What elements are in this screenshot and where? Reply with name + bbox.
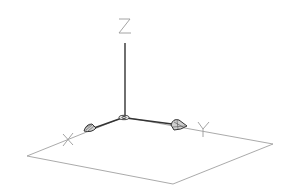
origin-marker — [119, 115, 129, 119]
x-axis-cone-icon — [84, 124, 96, 132]
x-axis-line — [94, 118, 122, 128]
xy-plane — [27, 117, 273, 184]
ucs-diagram-canvas — [0, 0, 290, 190]
y-axis-line — [126, 118, 172, 124]
ucs-diagram: X Y Z — [0, 0, 290, 190]
